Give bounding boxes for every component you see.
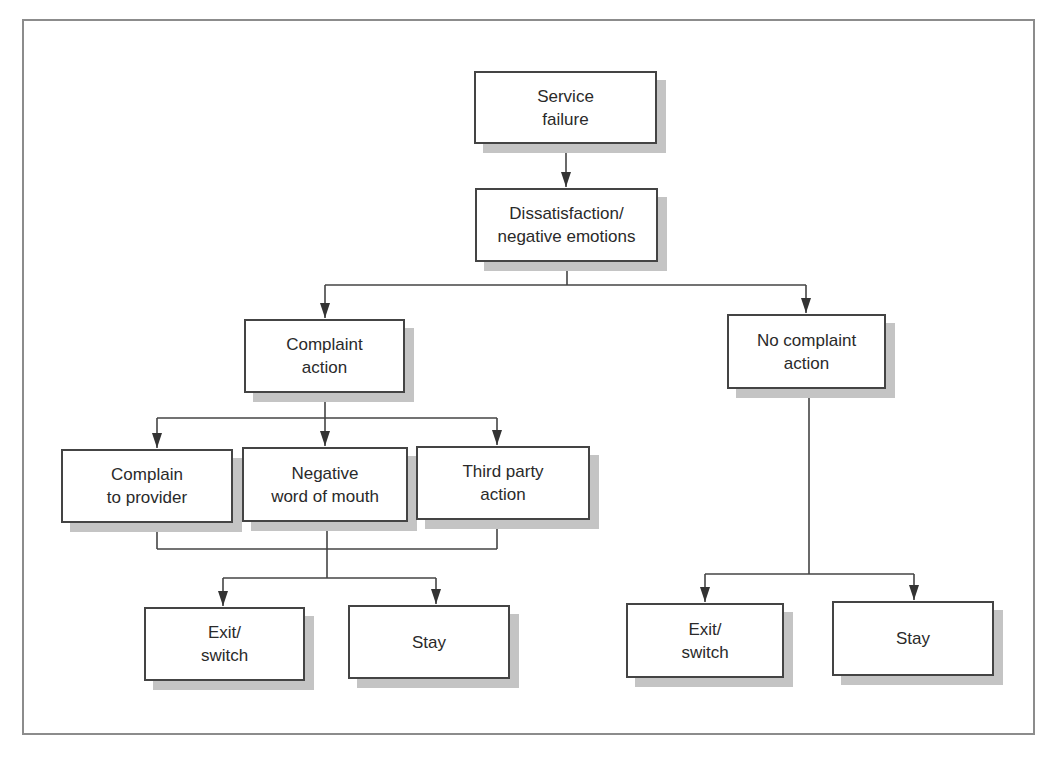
node-service-failure: Service failure xyxy=(474,71,657,144)
node-negative-word-of-mouth: Negative word of mouth xyxy=(242,447,408,522)
node-exit-switch-right: Exit/ switch xyxy=(626,603,784,678)
node-no-complaint-action: No complaint action xyxy=(727,314,886,389)
node-third-party-action: Third party action xyxy=(416,446,590,520)
node-complaint-action: Complaint action xyxy=(244,319,405,393)
node-dissatisfaction: Dissatisfaction/ negative emotions xyxy=(475,188,658,262)
node-stay-right: Stay xyxy=(832,601,994,676)
node-exit-switch-left: Exit/ switch xyxy=(144,607,305,681)
node-complain-to-provider: Complain to provider xyxy=(61,449,233,523)
node-stay-left: Stay xyxy=(348,605,510,679)
arrow-head xyxy=(561,172,571,187)
